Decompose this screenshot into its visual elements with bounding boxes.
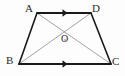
vertex-label-B: B [6,55,13,66]
vertex-label-C: C [112,56,119,67]
diagonal-BD [19,13,91,64]
side-AB [19,13,37,64]
arrow-marker-AD-icon [63,9,68,17]
geometry-figure: A D B C O [0,0,125,76]
vertex-label-A: A [25,3,33,14]
diagonal-AC [37,13,111,64]
intersection-label-O: O [61,33,68,44]
arrow-marker-BC-icon [63,60,68,68]
vertex-label-D: D [92,3,100,14]
side-DC [91,13,111,64]
